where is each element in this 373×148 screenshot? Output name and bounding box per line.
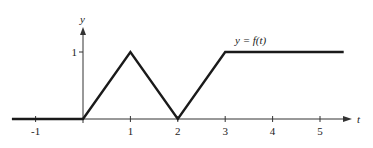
y-axis-label: y xyxy=(79,13,85,25)
line-chart: t y -112345 1 y = f(t) xyxy=(0,0,373,148)
y-ticks: 1 xyxy=(72,46,84,58)
x-tick-label: 3 xyxy=(222,125,228,137)
x-tick-label: 2 xyxy=(175,125,181,137)
x-tick-label: -1 xyxy=(31,125,40,137)
y-tick-label: 1 xyxy=(72,46,78,58)
x-tick-label: 5 xyxy=(317,125,323,137)
series-line-f-of-t xyxy=(12,52,344,119)
x-axis-arrow-icon xyxy=(343,116,352,122)
x-tick-label: 4 xyxy=(270,125,276,137)
x-tick-label: 1 xyxy=(128,125,134,137)
function-label: y = f(t) xyxy=(234,34,267,47)
y-axis-arrow-icon xyxy=(80,27,86,35)
x-axis-label: t xyxy=(357,113,361,125)
